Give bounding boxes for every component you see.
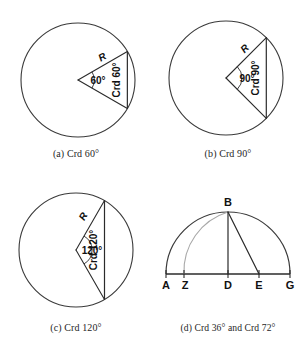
panel-c-caption: (c) Crd 120° — [0, 322, 152, 334]
panel-c-canvas: R 120° Crd 120° — [0, 174, 152, 324]
figure-root: R 60° Crd 60° (a) Crd 60° R 90° Crd 90° … — [0, 0, 305, 348]
panel-crd-90: R 90° Crd 90° (b) Crd 90° — [152, 0, 304, 174]
point-label-A: A — [162, 279, 170, 291]
angle-label: 60° — [90, 75, 105, 86]
panel-d-caption: (d) Crd 36° and Crd 72° — [152, 322, 304, 334]
panel-b-caption: (b) Crd 90° — [152, 148, 304, 160]
panel-a-canvas: R 60° Crd 60° — [0, 0, 152, 150]
radius-label: R — [238, 42, 251, 55]
gray-arc-BZ — [184, 212, 228, 274]
chord-label: Crd 60° — [111, 62, 122, 97]
panel-d-canvas: A Z D E G B — [152, 174, 304, 324]
panel-a-caption: (a) Crd 60° — [0, 148, 152, 160]
radius-label: R — [76, 210, 90, 222]
panel-crd-120: R 120° Crd 120° (c) Crd 120° — [0, 174, 152, 348]
point-label-G: G — [286, 279, 295, 291]
segment-BE — [228, 212, 259, 274]
point-label-Z: Z — [182, 279, 189, 291]
panel-b-canvas: R 90° Crd 90° — [152, 0, 304, 150]
point-label-D: D — [224, 279, 232, 291]
panel-crd-60: R 60° Crd 60° (a) Crd 60° — [0, 0, 152, 174]
chord-label: Crd 120° — [88, 230, 99, 271]
chord-label: Crd 90° — [250, 60, 261, 95]
point-label-E: E — [255, 279, 262, 291]
panel-crd-36-72: A Z D E G B (d) Crd 36° and Crd 72° — [152, 174, 304, 348]
radius-label: R — [96, 50, 108, 64]
point-label-B: B — [224, 196, 232, 208]
